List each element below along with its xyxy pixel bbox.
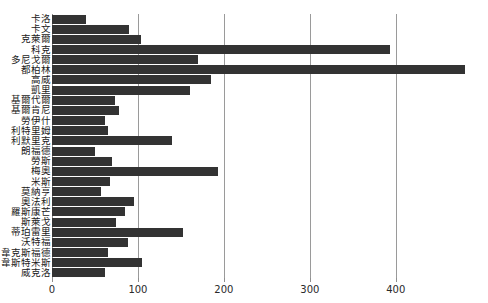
- bar-row[interactable]: 基爾代爾: [0, 95, 488, 105]
- bar[interactable]: [52, 86, 190, 95]
- bar-row[interactable]: 羅斯康芒: [0, 207, 488, 217]
- bar[interactable]: [52, 55, 198, 64]
- bar[interactable]: [52, 116, 105, 125]
- x-tick-mark: [396, 278, 397, 282]
- bar-row[interactable]: 克萊爾: [0, 34, 488, 44]
- x-tick-label: 0: [49, 284, 55, 296]
- bar[interactable]: [52, 218, 116, 227]
- bar-row[interactable]: 卡洛: [0, 14, 488, 24]
- bar[interactable]: [52, 25, 129, 34]
- bar[interactable]: [52, 167, 218, 176]
- bar[interactable]: [52, 238, 128, 247]
- bar-row[interactable]: 斯萊戈: [0, 217, 488, 227]
- bar[interactable]: [52, 75, 211, 84]
- x-tick-mark: [224, 278, 225, 282]
- bar-row[interactable]: 韋克斯福德: [0, 248, 488, 258]
- bar-row[interactable]: 科克: [0, 44, 488, 54]
- x-tick-label: 100: [128, 284, 147, 296]
- x-tick-label: 300: [300, 284, 319, 296]
- bar[interactable]: [52, 157, 112, 166]
- bar[interactable]: [52, 258, 142, 267]
- bar-row[interactable]: 韋斯特米斯: [0, 258, 488, 268]
- bar-row[interactable]: 奧法利: [0, 197, 488, 207]
- bar[interactable]: [52, 35, 141, 44]
- bar-row[interactable]: 利默里克: [0, 136, 488, 146]
- bar[interactable]: [52, 248, 108, 257]
- bar-chart-figure: 卡洛卡文克萊爾科克多尼戈爾都柏林高威凱里基爾代爾基爾肯尼勞伊什利特里姆利默里克朗…: [0, 0, 488, 303]
- bar-row[interactable]: 卡文: [0, 24, 488, 34]
- bar[interactable]: [52, 106, 119, 115]
- category-label: 威克洛: [21, 268, 51, 278]
- bar[interactable]: [52, 136, 172, 145]
- bar[interactable]: [52, 197, 134, 206]
- bar-row[interactable]: 勞伊什: [0, 116, 488, 126]
- bar[interactable]: [52, 65, 465, 74]
- bar[interactable]: [52, 96, 115, 105]
- bar[interactable]: [52, 15, 86, 24]
- bar[interactable]: [52, 147, 95, 156]
- bar-row[interactable]: 梅奧: [0, 166, 488, 176]
- bar-row[interactable]: 沃特福: [0, 237, 488, 247]
- x-tick-mark: [138, 278, 139, 282]
- plot-area: 卡洛卡文克萊爾科克多尼戈爾都柏林高威凱里基爾代爾基爾肯尼勞伊什利特里姆利默里克朗…: [0, 14, 488, 278]
- bar[interactable]: [52, 207, 125, 216]
- bar-row[interactable]: 莫納亨: [0, 187, 488, 197]
- bar[interactable]: [52, 45, 390, 54]
- x-tick-label: 200: [214, 284, 233, 296]
- bar[interactable]: [52, 126, 108, 135]
- bar-row[interactable]: 米斯: [0, 176, 488, 186]
- bar-row[interactable]: 基爾肯尼: [0, 105, 488, 115]
- bar[interactable]: [52, 177, 110, 186]
- x-tick-mark: [52, 278, 53, 282]
- bar-row[interactable]: 蒂珀雷里: [0, 227, 488, 237]
- x-tick-mark: [310, 278, 311, 282]
- bar-row[interactable]: 凱里: [0, 85, 488, 95]
- bar-row[interactable]: 朗福德: [0, 146, 488, 156]
- bar-row[interactable]: 勞斯: [0, 156, 488, 166]
- bar[interactable]: [52, 228, 183, 237]
- x-axis: 0100200300400: [0, 278, 488, 303]
- bar-row[interactable]: 利特里姆: [0, 126, 488, 136]
- bar-row[interactable]: 威克洛: [0, 268, 488, 278]
- bar[interactable]: [52, 187, 101, 196]
- bar[interactable]: [52, 268, 105, 277]
- bar-row[interactable]: 高威: [0, 75, 488, 85]
- bar-row[interactable]: 多尼戈爾: [0, 55, 488, 65]
- x-tick-label: 400: [386, 284, 405, 296]
- bar-row[interactable]: 都柏林: [0, 65, 488, 75]
